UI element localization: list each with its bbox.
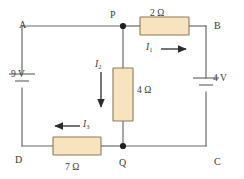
node-label-q: Q [119,158,126,168]
resistor-7ohm-label: 7 Ω [65,163,79,173]
node-label-c: C [214,157,221,167]
node-label-a: A [19,20,26,30]
resistor-2ohm-body [140,17,189,35]
resistor-7ohm-body [53,137,101,155]
junction-dot-q [120,143,126,149]
resistor-4ohm-label: 4 Ω [137,86,151,96]
resistor-4ohm-body [113,68,133,121]
circuit-schematic-svg [0,0,244,179]
node-label-d: D [15,155,22,165]
resistor-2ohm-label: 2 Ω [150,9,164,19]
current-subscript-i3: 3 [86,123,89,130]
current-label-i2: I2 [95,60,101,70]
current-subscript-i1: 1 [149,46,152,53]
battery-4v-label: 4 V [213,74,227,84]
current-label-i3: I3 [83,120,89,130]
battery-9v-label: 9 V [11,70,25,80]
junction-dot-p [120,23,126,29]
node-label-b: B [214,21,221,31]
circuit-diagram: A B P Q C D 2 Ω 4 Ω 7 Ω 9 V 4 V I1 I2 I3 [0,0,244,179]
node-label-p: P [110,10,116,20]
current-subscript-i2: 2 [98,63,101,70]
current-label-i1: I1 [146,43,152,53]
